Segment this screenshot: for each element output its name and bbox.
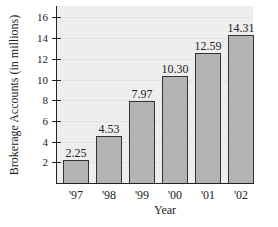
x-axis-line xyxy=(56,183,254,184)
gridline xyxy=(57,100,253,101)
y-tick-label: 12 xyxy=(20,53,48,65)
y-tick-label: 2 xyxy=(20,156,48,168)
y-tick-label: 4 xyxy=(20,136,48,148)
gridline xyxy=(57,121,253,122)
bar xyxy=(63,160,89,184)
bar xyxy=(96,136,122,184)
y-axis-title: Brokerage Accounts (in millions) xyxy=(7,15,22,175)
bar xyxy=(195,53,221,184)
gridline xyxy=(57,80,253,81)
bar-value-label: 4.53 xyxy=(84,123,134,135)
y-tick-label: 8 xyxy=(20,94,48,106)
gridline xyxy=(57,59,253,60)
bar-value-label: 12.59 xyxy=(183,40,233,52)
x-tick-label: '02 xyxy=(221,189,261,201)
bar-value-label: 14.31 xyxy=(216,22,266,34)
bar-value-label: 10.30 xyxy=(150,63,200,75)
gridline xyxy=(57,38,253,39)
bar-value-label: 7.97 xyxy=(117,88,167,100)
x-axis-title: Year xyxy=(135,203,195,218)
bar-value-label: 2.25 xyxy=(51,147,101,159)
y-tick-label: 10 xyxy=(20,74,48,86)
bar xyxy=(228,35,254,184)
gridline xyxy=(57,17,253,18)
y-tick-label: 6 xyxy=(20,115,48,127)
bar xyxy=(129,101,155,184)
y-tick-label: 16 xyxy=(20,11,48,23)
gridline xyxy=(57,142,253,143)
bar xyxy=(162,76,188,184)
brokerage-accounts-bar-chart: 246810121416 2.254.537.9710.3012.5914.31… xyxy=(0,0,278,227)
y-tick-label: 14 xyxy=(20,32,48,44)
y-axis-line xyxy=(56,6,57,184)
